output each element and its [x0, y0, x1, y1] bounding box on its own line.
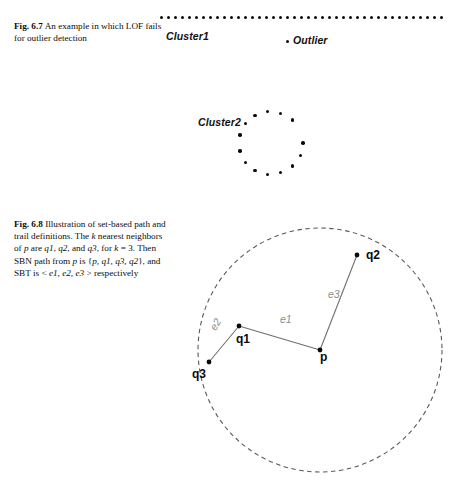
outlier-label: Outlier [293, 34, 328, 46]
edge-e2-line [209, 326, 239, 362]
figure-6-7-caption: Fig. 6.7 An example in which LOF fails f… [14, 20, 164, 44]
figure-6-8-caption-l4b: are [29, 243, 45, 253]
point-q3-label: q3 [192, 367, 206, 381]
figure-6-8-number: Fig. 6.8 [14, 219, 43, 229]
cluster1-dot [174, 16, 177, 19]
cluster1-dot [202, 16, 205, 19]
cluster1-dot [181, 16, 184, 19]
cluster1-dot [328, 16, 331, 19]
outlier-dot [286, 40, 289, 43]
cluster1-dot [391, 16, 394, 19]
point-q2-label: q2 [366, 248, 380, 262]
cluster1-dot [405, 16, 408, 19]
cluster1-dot [300, 16, 303, 19]
cluster2-dot [238, 133, 241, 136]
document-page: Fig. 6.7 An example in which LOF fails f… [0, 0, 464, 480]
cluster2-dot [244, 122, 247, 125]
cluster2-label: Cluster2 [198, 116, 241, 128]
edge-e3-line [320, 255, 357, 350]
figure-6-8-caption-l7b: > [84, 268, 91, 278]
cluster2-dot [291, 118, 294, 121]
cluster1-dot [321, 16, 324, 19]
figure-6-8-caption-l4d: , and [67, 243, 85, 253]
cluster1-label: Cluster1 [166, 30, 209, 42]
edge-e1-line [239, 326, 320, 350]
cluster1-dot [412, 16, 415, 19]
cluster1-dot [244, 16, 247, 19]
figure-6-8-caption-set: p, q1, q3, q2 [92, 256, 138, 266]
cluster1-dot [356, 16, 359, 19]
cluster2-dot [238, 149, 241, 152]
figure-6-8-caption-l6c: }, and [138, 256, 160, 266]
edge-e3-label: e3 [328, 288, 340, 300]
cluster1-dot [237, 16, 240, 19]
cluster1-dot [251, 16, 254, 19]
cluster1-dot [216, 16, 219, 19]
cluster2-dot [279, 112, 282, 115]
figure-6-8-caption-l3a: definitions. The [31, 231, 91, 241]
cluster1-dot [223, 16, 226, 19]
cluster1-dot [384, 16, 387, 19]
figure-6-8-caption-l6b: is { [77, 256, 92, 266]
knn-diagram-svg [180, 222, 452, 480]
cluster1-dot [160, 16, 163, 19]
cluster1-dot [433, 16, 436, 19]
cluster1-dot [440, 16, 443, 19]
point-q1-dot [237, 324, 242, 329]
cluster1-dot [370, 16, 373, 19]
cluster1-dot [314, 16, 317, 19]
cluster2-dot [253, 114, 256, 117]
figure-6-8-caption-q2: q2 [58, 243, 67, 253]
cluster1-dot [293, 16, 296, 19]
cluster1-dot [307, 16, 310, 19]
cluster1-dot [419, 16, 422, 19]
cluster1-dot [335, 16, 338, 19]
cluster2-dot [253, 169, 256, 172]
point-p-label: p [320, 350, 327, 364]
figure-6-7-number: Fig. 6.7 [14, 21, 43, 31]
cluster1-dot [167, 16, 170, 19]
cluster1-dot [230, 16, 233, 19]
figure-6-8-caption: Fig. 6.8 Illustration of set-based path … [14, 218, 166, 279]
figure-6-8-caption-l3b: nearest [95, 231, 123, 241]
figure-6-8-caption-l5a: , for [97, 243, 115, 253]
cluster2-dot [291, 164, 294, 167]
figure-6-8-caption-l1: Illustration of [45, 219, 95, 229]
cluster1-dot [209, 16, 212, 19]
cluster1-dot [342, 16, 345, 19]
cluster1-dot [363, 16, 366, 19]
figure-6-8-caption-q1: q1 [44, 243, 53, 253]
cluster1-dot [195, 16, 198, 19]
figure-6-8-graphic: p q1 q2 q3 e1 e2 e3 [180, 222, 452, 480]
figure-6-8-caption-l7a: SBT is < [14, 268, 49, 278]
cluster1-dot [258, 16, 261, 19]
figure-6-7-graphic: Cluster1 Outlier Cluster2 [160, 8, 460, 193]
cluster1-dot [272, 16, 275, 19]
figure-6-8-caption-l8: respectively [94, 268, 138, 278]
cluster2-dot [244, 161, 247, 164]
point-q3-dot [207, 360, 212, 365]
figure-6-8-caption-l6a: from [52, 256, 72, 266]
figure-6-8-caption-trail: e1, e2, e3 [49, 268, 84, 278]
cluster1-dot [398, 16, 401, 19]
cluster1-dot [188, 16, 191, 19]
cluster2-dot [266, 173, 269, 176]
edge-e1-label: e1 [280, 313, 292, 325]
cluster1-dot [426, 16, 429, 19]
figure-6-8-caption-q3: q3 [87, 243, 96, 253]
cluster2-dot [299, 154, 302, 157]
cluster1-dot [279, 16, 282, 19]
cluster1-dot [265, 16, 268, 19]
cluster2-dot [266, 110, 269, 113]
cluster2-dot [279, 171, 282, 174]
cluster1-dot [349, 16, 352, 19]
point-q1-label: q1 [236, 332, 250, 346]
cluster1-dot [377, 16, 380, 19]
cluster2-dot [301, 141, 304, 144]
cluster1-dot [286, 16, 289, 19]
point-q2-dot [355, 253, 360, 258]
